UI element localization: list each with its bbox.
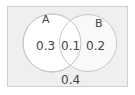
outside-value: 0.4 [61,73,80,87]
intersection-value: 0.1 [61,39,80,53]
venn-diagram: A B 0.3 0.1 0.2 0.4 [0,0,135,95]
set-b-label: B [95,17,103,30]
set-a-label: A [42,13,50,26]
a-only-value: 0.3 [36,39,55,53]
b-only-value: 0.2 [86,39,105,53]
